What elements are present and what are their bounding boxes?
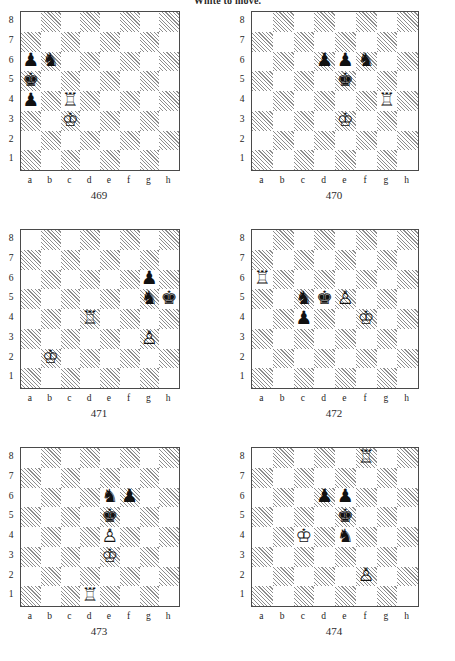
square-f2[interactable] — [120, 131, 140, 151]
square-a6[interactable]: ♟ — [21, 52, 41, 72]
square-f5[interactable] — [356, 289, 377, 309]
square-b7[interactable] — [41, 250, 61, 270]
square-g8[interactable] — [377, 230, 398, 250]
square-g3[interactable] — [377, 329, 398, 349]
square-a1[interactable] — [252, 586, 273, 606]
square-b5[interactable] — [273, 507, 294, 527]
square-a2[interactable] — [252, 567, 273, 587]
square-h2[interactable] — [159, 567, 179, 587]
square-d6[interactable] — [80, 52, 100, 72]
square-b6[interactable] — [41, 488, 61, 508]
square-g4[interactable] — [140, 309, 160, 329]
square-e6[interactable]: ♟ — [335, 488, 356, 508]
square-c7[interactable] — [61, 32, 81, 52]
square-a7[interactable] — [252, 468, 273, 488]
white-king-icon[interactable]: ♔ — [296, 528, 313, 547]
square-a2[interactable] — [21, 567, 41, 587]
square-h5[interactable] — [397, 289, 418, 309]
square-g3[interactable] — [377, 547, 398, 567]
square-e7[interactable] — [335, 32, 356, 52]
white-pawn-icon[interactable]: ♙ — [358, 567, 375, 586]
square-h4[interactable] — [397, 309, 418, 329]
square-g3[interactable] — [140, 111, 160, 131]
square-e2[interactable] — [335, 567, 356, 587]
square-a1[interactable] — [252, 150, 273, 170]
square-c8[interactable] — [294, 230, 315, 250]
square-c2[interactable] — [294, 567, 315, 587]
square-d1[interactable] — [314, 150, 335, 170]
square-c2[interactable] — [61, 131, 81, 151]
square-f4[interactable] — [356, 527, 377, 547]
square-d1[interactable] — [314, 586, 335, 606]
square-f1[interactable] — [356, 586, 377, 606]
square-d7[interactable] — [80, 468, 100, 488]
square-h2[interactable] — [397, 349, 418, 369]
square-f2[interactable] — [356, 349, 377, 369]
white-rook-icon[interactable]: ♖ — [82, 587, 99, 606]
square-c6[interactable] — [61, 52, 81, 72]
square-h5[interactable] — [159, 507, 179, 527]
square-e1[interactable] — [100, 150, 120, 170]
square-f4[interactable] — [120, 91, 140, 111]
square-c6[interactable] — [61, 270, 81, 290]
square-c8[interactable] — [61, 448, 81, 468]
square-h7[interactable] — [159, 250, 179, 270]
square-c7[interactable] — [61, 250, 81, 270]
square-g7[interactable] — [377, 32, 398, 52]
square-c5[interactable]: ♞ — [294, 289, 315, 309]
square-b6[interactable] — [273, 52, 294, 72]
square-g6[interactable] — [377, 270, 398, 290]
black-knight-icon[interactable]: ♞ — [141, 290, 158, 309]
square-a7[interactable] — [21, 468, 41, 488]
square-e5[interactable] — [100, 71, 120, 91]
square-b2[interactable] — [41, 131, 61, 151]
square-d7[interactable] — [314, 250, 335, 270]
square-f4[interactable] — [120, 309, 140, 329]
square-b8[interactable] — [273, 230, 294, 250]
square-h3[interactable] — [159, 547, 179, 567]
square-g6[interactable] — [140, 488, 160, 508]
square-a8[interactable] — [252, 230, 273, 250]
square-f8[interactable] — [356, 230, 377, 250]
square-e4[interactable]: ♞ — [335, 527, 356, 547]
square-e6[interactable]: ♟ — [335, 52, 356, 72]
square-a3[interactable] — [252, 329, 273, 349]
square-c3[interactable] — [294, 547, 315, 567]
square-d2[interactable] — [314, 131, 335, 151]
square-f2[interactable] — [120, 567, 140, 587]
square-b8[interactable] — [273, 12, 294, 32]
square-b4[interactable] — [273, 309, 294, 329]
square-h7[interactable] — [397, 32, 418, 52]
square-h1[interactable] — [159, 368, 179, 388]
square-f2[interactable] — [356, 131, 377, 151]
square-h6[interactable] — [397, 488, 418, 508]
square-b3[interactable] — [273, 547, 294, 567]
square-e8[interactable] — [100, 230, 120, 250]
square-h8[interactable] — [397, 230, 418, 250]
square-c5[interactable] — [61, 507, 81, 527]
square-c5[interactable] — [61, 289, 81, 309]
black-pawn-icon[interactable]: ♟ — [316, 488, 333, 507]
square-e1[interactable] — [335, 586, 356, 606]
square-a6[interactable] — [21, 488, 41, 508]
square-c1[interactable] — [61, 586, 81, 606]
square-f8[interactable] — [120, 230, 140, 250]
square-f3[interactable] — [120, 329, 140, 349]
square-d5[interactable]: ♚ — [314, 289, 335, 309]
square-a6[interactable] — [252, 52, 273, 72]
square-b5[interactable] — [41, 289, 61, 309]
square-c3[interactable] — [294, 111, 315, 131]
square-g2[interactable] — [140, 131, 160, 151]
square-d3[interactable] — [80, 329, 100, 349]
square-h6[interactable] — [159, 270, 179, 290]
square-c4[interactable]: ♟ — [294, 309, 315, 329]
square-g2[interactable] — [377, 567, 398, 587]
square-c6[interactable] — [294, 488, 315, 508]
square-d4[interactable] — [314, 309, 335, 329]
square-c5[interactable] — [294, 507, 315, 527]
square-d1[interactable] — [80, 150, 100, 170]
square-e7[interactable] — [335, 250, 356, 270]
square-f6[interactable] — [120, 270, 140, 290]
square-d2[interactable] — [314, 349, 335, 369]
square-h1[interactable] — [159, 150, 179, 170]
